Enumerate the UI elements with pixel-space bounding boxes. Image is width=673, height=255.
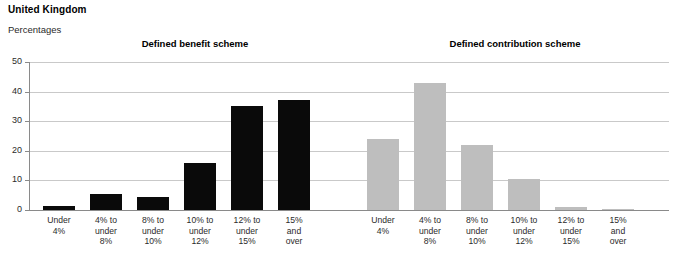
plot-area bbox=[29, 62, 669, 210]
bar-defined-benefit-4 bbox=[231, 106, 263, 210]
bar-defined-contribution-1 bbox=[414, 83, 446, 210]
bar-defined-benefit-5 bbox=[278, 100, 310, 210]
y-tick-label: 30 bbox=[0, 115, 22, 125]
y-tick-label: 10 bbox=[0, 174, 22, 184]
y-tick-label: 40 bbox=[0, 86, 22, 96]
chart-figure: United Kingdom Percentages Defined benef… bbox=[0, 0, 673, 255]
bar-defined-contribution-0 bbox=[367, 139, 399, 210]
y-tick-label: 50 bbox=[0, 56, 22, 66]
bar-defined-benefit-3 bbox=[184, 163, 216, 210]
unit-label: Percentages bbox=[8, 24, 61, 35]
panel-title-defined-contribution: Defined contribution scheme bbox=[365, 38, 665, 49]
bar-defined-benefit-0 bbox=[43, 206, 75, 210]
bar-defined-benefit-2 bbox=[137, 197, 169, 210]
bar-defined-contribution-3 bbox=[508, 179, 540, 210]
y-tick-label: 0 bbox=[0, 204, 22, 214]
bar-defined-benefit-1 bbox=[90, 194, 122, 210]
bar-defined-contribution-2 bbox=[461, 145, 493, 210]
bar-defined-contribution-5 bbox=[602, 209, 634, 210]
panel-title-defined-benefit: Defined benefit scheme bbox=[30, 38, 360, 49]
x-category-label-defined-benefit-5: 15% and over bbox=[266, 215, 322, 247]
x-category-label-defined-contribution-5: 15% and over bbox=[590, 215, 646, 247]
page-title: United Kingdom bbox=[8, 4, 87, 15]
y-tick-label: 20 bbox=[0, 145, 22, 155]
x-axis-line bbox=[29, 210, 669, 211]
bar-defined-contribution-4 bbox=[555, 207, 587, 210]
